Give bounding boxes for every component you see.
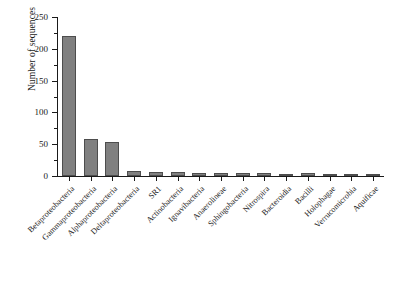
x-tick-mark — [286, 177, 287, 181]
bar — [214, 173, 228, 176]
bar — [323, 174, 337, 176]
bar-chart-figure: Number of sequences 050100150200250 Beta… — [0, 0, 394, 291]
bar — [192, 173, 206, 176]
bar — [279, 174, 293, 176]
y-tick-mark — [52, 81, 57, 82]
bar — [257, 173, 271, 176]
x-tick-mark — [112, 177, 113, 181]
y-tick-mark — [52, 144, 57, 145]
y-minor-tick-mark — [54, 33, 57, 34]
y-axis-line — [57, 17, 58, 177]
x-tick-mark — [351, 177, 352, 181]
x-tick-mark — [221, 177, 222, 181]
x-tick-mark — [178, 177, 179, 181]
bar — [149, 172, 163, 176]
bar — [301, 173, 315, 176]
x-tick-mark — [330, 177, 331, 181]
x-tick-mark — [199, 177, 200, 181]
bar — [366, 174, 380, 176]
y-tick-label: 150 — [8, 77, 48, 86]
bar — [62, 36, 76, 176]
y-tick-label: 250 — [8, 13, 48, 22]
x-tick-mark — [91, 177, 92, 181]
x-tick-mark — [264, 177, 265, 181]
x-tick-mark — [134, 177, 135, 181]
y-minor-tick-mark — [54, 65, 57, 66]
y-minor-tick-mark — [54, 128, 57, 129]
y-tick-mark — [52, 49, 57, 50]
bar — [84, 139, 98, 176]
bar — [236, 173, 250, 176]
bar — [344, 174, 358, 176]
x-tick-mark — [69, 177, 70, 181]
bar — [127, 171, 141, 176]
x-tick-mark — [156, 177, 157, 181]
x-tick-mark — [243, 177, 244, 181]
y-tick-label: 0 — [8, 172, 48, 181]
bar — [105, 142, 119, 176]
bar — [171, 172, 185, 176]
x-tick-mark — [373, 177, 374, 181]
y-minor-tick-mark — [54, 97, 57, 98]
y-tick-mark — [52, 112, 57, 113]
y-tick-label: 50 — [8, 140, 48, 149]
x-tick-mark — [308, 177, 309, 181]
y-minor-tick-mark — [54, 160, 57, 161]
y-tick-mark — [52, 176, 57, 177]
y-tick-label: 200 — [8, 45, 48, 54]
y-tick-mark — [52, 17, 57, 18]
y-tick-label: 100 — [8, 108, 48, 117]
